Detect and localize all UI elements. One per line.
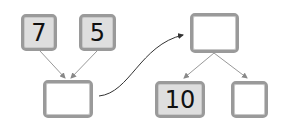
split-answer-box[interactable] [231, 81, 268, 118]
number-box-7: 7 [21, 14, 57, 51]
number-box-10: 10 [155, 81, 205, 118]
number-box-5: 5 [79, 14, 116, 51]
arrow-5-to-sum [71, 51, 97, 78]
result-answer-box[interactable] [190, 13, 239, 53]
arrow-7-to-sum [40, 51, 65, 78]
sum-answer-box[interactable] [43, 80, 93, 118]
arrow-result-to-empty [214, 53, 247, 78]
arrow-result-to-10 [184, 53, 214, 78]
